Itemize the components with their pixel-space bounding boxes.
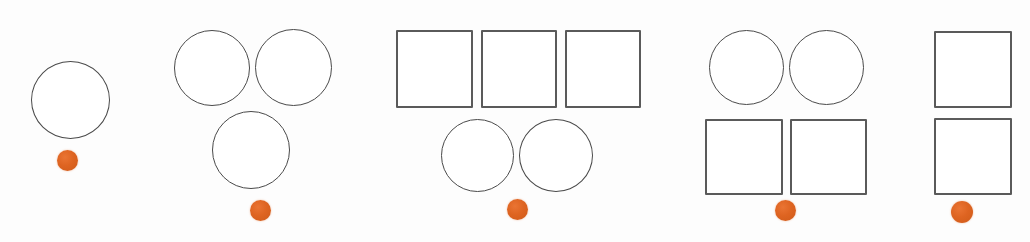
circle-shape [709, 30, 784, 105]
figure-canvas [0, 0, 1030, 242]
orange-marker-dot [775, 200, 796, 221]
square-shape [934, 31, 1012, 108]
square-shape [790, 119, 867, 195]
circle-shape [441, 119, 514, 192]
square-shape [396, 30, 473, 108]
orange-marker-dot [951, 201, 973, 223]
circle-shape [174, 30, 250, 106]
square-shape [705, 119, 783, 195]
circle-shape [31, 61, 110, 139]
orange-marker-dot [507, 199, 528, 220]
circle-shape [519, 119, 593, 192]
square-shape [934, 118, 1012, 195]
circle-shape [212, 111, 290, 189]
square-shape [565, 30, 641, 108]
orange-marker-dot [57, 150, 78, 171]
orange-marker-dot [250, 200, 271, 221]
square-shape [481, 30, 557, 108]
circle-shape [255, 29, 332, 106]
circle-shape [789, 30, 864, 105]
